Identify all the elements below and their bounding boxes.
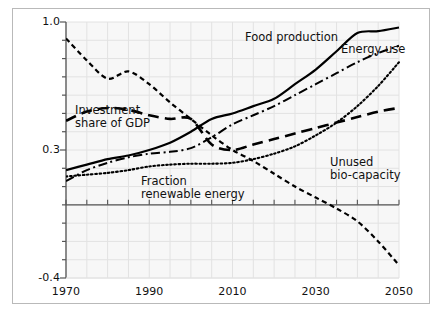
x-axis-tick-label: 1990 — [124, 285, 174, 298]
y-axis-tick-label: -0.4 — [18, 271, 60, 284]
series-annotation-label: share of GDP — [75, 117, 150, 131]
x-axis-tick-label: 2030 — [291, 285, 341, 298]
y-axis-tick-label: 1.0 — [18, 15, 60, 28]
x-axis-tick-label: 2010 — [208, 285, 258, 298]
x-axis-tick-label: 2050 — [374, 285, 424, 298]
y-axis-tick-label: 0.3 — [18, 143, 60, 156]
x-axis-tick-label: 1970 — [41, 285, 91, 298]
series-annotation-label: renewable energy — [141, 188, 245, 202]
series-annotation-label: bio-capacity — [330, 169, 400, 183]
series-annotation-label: Food production — [245, 31, 338, 45]
series-annotation-label: Energy use — [341, 43, 405, 57]
chart-figure: -0.40.31.019701990201020302050Food produ… — [0, 0, 442, 318]
